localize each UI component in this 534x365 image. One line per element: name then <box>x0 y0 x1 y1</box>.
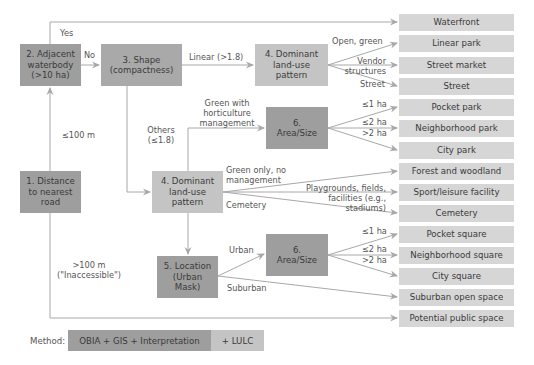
node-text: (Urban <box>173 272 202 282</box>
edge-label-gt2-top: >2 ha <box>362 128 387 138</box>
edge-label-suburban: Suburban <box>227 283 267 293</box>
edge-label-cemetery: Cemetery <box>226 200 266 210</box>
node-text: 4. Dominant <box>161 176 214 186</box>
node-text: 2. Adjacent <box>26 49 75 59</box>
label-text: (≤1.8) <box>148 135 174 145</box>
node-text: (>10 ha) <box>31 70 69 80</box>
node-dominant-landuse-mid: 4. Dominantland-usepattern <box>152 171 223 213</box>
node-text: (compactness) <box>110 65 174 75</box>
outcome-suburban-open-space: Suburban open space <box>399 289 514 306</box>
node-text: waterbody <box>28 60 74 70</box>
edge-label-horticulture: Green withhorticulturemanagement <box>194 98 260 128</box>
node-text: 3. Shape <box>123 55 161 65</box>
edge-label-gt100: >100 m("Inaccessible") <box>54 260 124 280</box>
outcome-street-market: Street market <box>399 57 514 74</box>
edge-label-le1-bottom: ≤1 ha <box>362 226 387 236</box>
legend-method-primary: OBIA + GIS + Interpretation <box>68 330 211 351</box>
label-text: >100 m <box>72 260 105 270</box>
node-text: 5. Location <box>164 261 211 271</box>
edge-label-green-only: Green only, nomanagement <box>226 165 286 185</box>
label-text: Playgrounds, fields, <box>306 183 386 193</box>
outcome-city-square: City square <box>399 268 514 285</box>
edge-label-le1-top: ≤1 ha <box>362 99 387 109</box>
label-text: structures <box>345 66 386 76</box>
outcome-potential-public-space: Potential public space <box>399 310 514 327</box>
outcome-city-park: City park <box>399 142 514 159</box>
outcome-street: Street <box>399 78 514 95</box>
node-distance-road: 1. Distanceto nearestroad <box>20 171 81 213</box>
outcome-sport-leisure: Sport/leisure facility <box>399 184 514 201</box>
label-text: Green only, no <box>226 165 286 175</box>
node-text: Area/Size <box>277 128 317 138</box>
edge-label-yes: Yes <box>60 28 73 38</box>
node-text: pattern <box>172 197 204 207</box>
node-text: land-use <box>273 60 310 70</box>
label-text: Vendor <box>357 56 386 66</box>
edge-label-vendor: Vendorstructures <box>340 56 386 76</box>
edge-label-le100: ≤100 m <box>62 130 95 140</box>
outcome-neighborhood-park: Neighborhood park <box>399 120 514 137</box>
label-text: ("Inaccessible") <box>57 270 121 280</box>
node-text: Area/Size <box>277 255 317 265</box>
label-text: Green with <box>205 98 250 108</box>
node-text: pattern <box>276 70 308 80</box>
label-text: stadiums) <box>345 203 386 213</box>
outcome-forest-woodland: Forest and woodland <box>399 163 514 180</box>
node-text: land-use <box>169 187 206 197</box>
edge-label-no: No <box>84 50 95 60</box>
node-text: Mask) <box>175 282 201 292</box>
node-text: 6. <box>293 245 301 255</box>
node-shape: 3. Shape(compactness) <box>101 44 182 86</box>
outcome-waterfront: Waterfront <box>399 14 514 31</box>
legend-label: Method: <box>30 336 65 346</box>
edge-label-urban: Urban <box>229 245 254 255</box>
edge-label-street: Street <box>360 79 385 89</box>
edge-label-le2-top: ≤2 ha <box>362 117 387 127</box>
node-area-size-bottom: 6.Area/Size <box>266 234 328 276</box>
node-location: 5. Location(UrbanMask) <box>157 256 218 298</box>
node-dominant-landuse-top: 4. Dominantland-usepattern <box>255 44 328 86</box>
label-text: horticulture <box>203 108 251 118</box>
node-text: to nearest <box>29 187 73 197</box>
outcome-pocket-square: Pocket square <box>399 226 514 243</box>
edge-label-open-green: Open, green <box>332 36 383 46</box>
edge-label-gt2-bottom: >2 ha <box>362 255 387 265</box>
label-text: management <box>200 118 255 128</box>
outcome-pocket-park: Pocket park <box>399 99 514 116</box>
label-text: management <box>226 175 281 185</box>
label-text: Others <box>147 125 175 135</box>
edge-label-linear: Linear (>1.8) <box>189 52 243 62</box>
outcome-neighborhood-square: Neighborhood square <box>399 247 514 264</box>
node-text: 6. <box>293 118 301 128</box>
node-text: 4. Dominant <box>265 49 318 59</box>
label-text: facilities (e.g., <box>328 193 386 203</box>
node-area-size-top: 6.Area/Size <box>266 107 328 149</box>
outcome-linear-park: Linear park <box>399 35 514 52</box>
node-text: 1. Distance <box>26 176 75 186</box>
edge-label-others: Others(≤1.8) <box>144 125 178 145</box>
node-adjacent-waterbody: 2. Adjacentwaterbody(>10 ha) <box>20 44 81 86</box>
legend-method-secondary: + LULC <box>211 330 264 351</box>
outcome-cemetery: Cemetery <box>399 205 514 222</box>
edge-label-playgrounds: Playgrounds, fields,facilities (e.g.,sta… <box>290 183 386 213</box>
node-text: road <box>41 197 60 207</box>
edge-label-le2-bottom: ≤2 ha <box>362 244 387 254</box>
